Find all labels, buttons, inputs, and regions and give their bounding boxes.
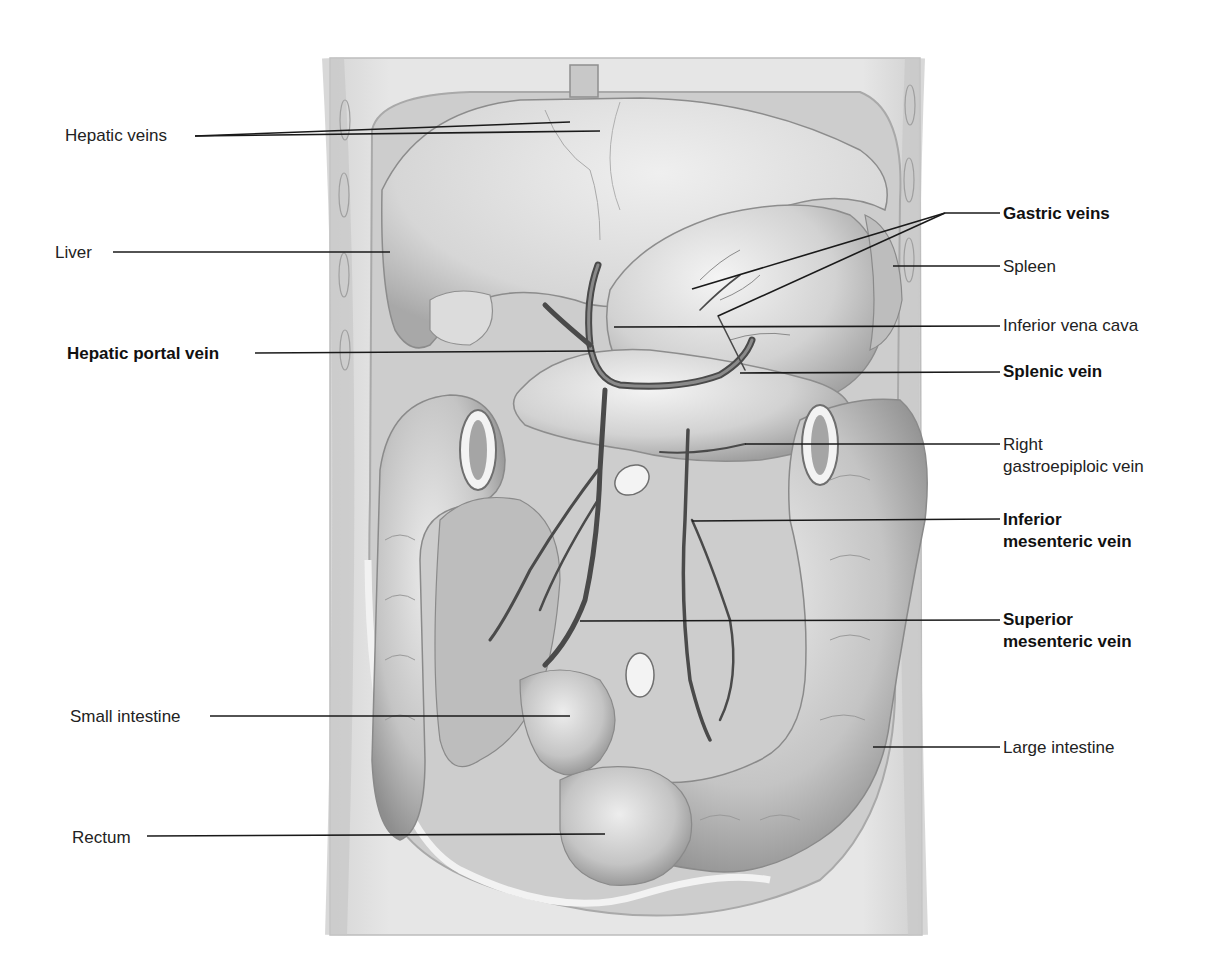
label-small-intestine: Small intestine xyxy=(70,706,181,728)
label-text: Rectum xyxy=(72,828,131,847)
label-text: Hepatic veins xyxy=(65,126,167,145)
abdominal-illustration xyxy=(0,0,1228,977)
label-right-gastroepiploic-vein: Rightgastroepiploic vein xyxy=(1003,434,1144,478)
label-liver: Liver xyxy=(55,242,92,264)
label-superior-mesenteric-vein: Superiormesenteric vein xyxy=(1003,609,1132,653)
anatomy-figure: Hepatic veinsLiverHepatic portal veinSma… xyxy=(0,0,1228,977)
label-splenic-vein: Splenic vein xyxy=(1003,361,1102,383)
label-text: Spleen xyxy=(1003,257,1056,276)
label-text-line2: mesenteric vein xyxy=(1003,632,1132,651)
leader-line-superior-mesenteric-vein xyxy=(580,620,1000,621)
label-text: Liver xyxy=(55,243,92,262)
label-text-line2: gastroepiploic vein xyxy=(1003,457,1144,476)
label-hepatic-portal-vein: Hepatic portal vein xyxy=(67,343,219,365)
label-text: Splenic vein xyxy=(1003,362,1102,381)
label-text: Right xyxy=(1003,435,1043,454)
label-rectum: Rectum xyxy=(72,827,131,849)
label-text: Hepatic portal vein xyxy=(67,344,219,363)
label-text: Inferior vena cava xyxy=(1003,316,1138,335)
label-text: Large intestine xyxy=(1003,738,1115,757)
label-text: Superior xyxy=(1003,610,1073,629)
label-text: Inferior xyxy=(1003,510,1062,529)
label-large-intestine: Large intestine xyxy=(1003,737,1115,759)
label-inferior-mesenteric-vein: Inferiormesenteric vein xyxy=(1003,509,1132,553)
label-spleen: Spleen xyxy=(1003,256,1056,278)
leader-line-splenic-vein xyxy=(740,372,1000,373)
label-text: Gastric veins xyxy=(1003,204,1110,223)
vena-cava-stub xyxy=(570,65,598,97)
label-text: Small intestine xyxy=(70,707,181,726)
leader-line-inferior-vena-cava xyxy=(614,326,1000,327)
label-text-line2: mesenteric vein xyxy=(1003,532,1132,551)
label-inferior-vena-cava: Inferior vena cava xyxy=(1003,315,1138,337)
label-gastric-veins: Gastric veins xyxy=(1003,203,1110,225)
label-hepatic-veins: Hepatic veins xyxy=(65,125,167,147)
